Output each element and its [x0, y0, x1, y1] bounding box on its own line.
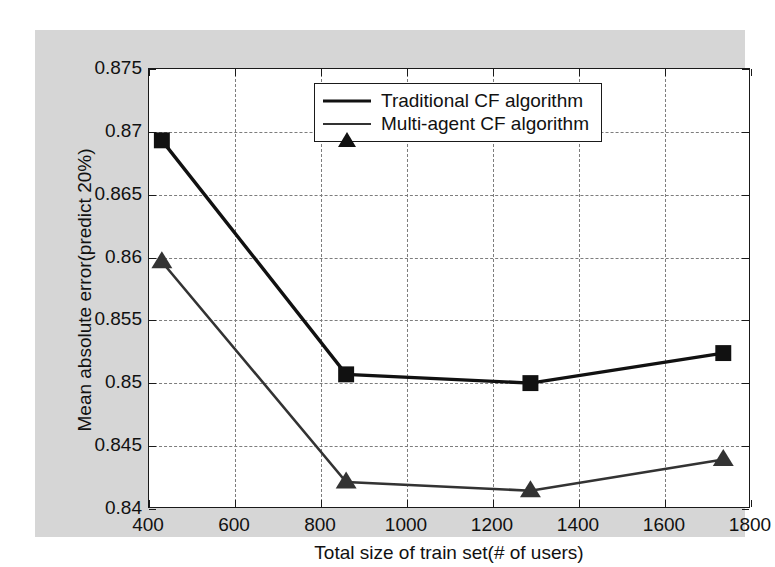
x-tick-label: 1600: [643, 514, 685, 536]
y-tick-label: 0.855: [94, 308, 142, 330]
triangle-marker-icon: [151, 251, 172, 268]
plot-area: Traditional CF algorithm Multi-agent CF …: [148, 68, 750, 508]
x-tick-label: 800: [304, 514, 336, 536]
x-tick-label: 1200: [471, 514, 513, 536]
x-tick-label: 1400: [557, 514, 599, 536]
x-axis-title: Total size of train set(# of users): [148, 542, 750, 564]
square-marker-icon: [715, 345, 731, 361]
y-tick-label: 0.87: [105, 120, 142, 142]
square-marker-icon: [338, 366, 354, 382]
legend-entry: Traditional CF algorithm: [323, 89, 589, 112]
x-axis-tick-labels: 40060080010001200140016001800: [148, 514, 750, 540]
legend-entry-label: Traditional CF algorithm: [381, 90, 583, 111]
y-tick-label: 0.875: [94, 57, 142, 79]
y-axis-title: Mean absolute error(predict 20%): [74, 70, 96, 510]
y-tick-label: 0.845: [94, 434, 142, 456]
triangle-marker-icon: [323, 114, 371, 134]
x-tick-label: 400: [132, 514, 164, 536]
y-tick-label: 0.85: [105, 371, 142, 393]
legend-entry: Multi-agent CF algorithm: [323, 112, 589, 135]
series-1: [154, 132, 731, 391]
square-marker-icon: [323, 91, 371, 111]
x-tick-label: 1000: [385, 514, 427, 536]
y-tick-mark: [149, 509, 156, 510]
square-marker-icon: [154, 132, 170, 148]
x-tick-mark: [751, 69, 752, 76]
legend: Traditional CF algorithm Multi-agent CF …: [314, 83, 602, 142]
square-marker-icon: [522, 375, 538, 391]
x-tick-label: 600: [218, 514, 250, 536]
y-tick-label: 0.86: [105, 246, 142, 268]
figure-canvas: Traditional CF algorithm Multi-agent CF …: [35, 30, 745, 537]
triangle-marker-icon: [713, 449, 734, 466]
y-tick-mark: [742, 509, 749, 510]
x-tick-label: 1800: [729, 514, 771, 536]
x-tick-mark: [751, 500, 752, 507]
series-line: [162, 262, 723, 491]
chart-figure: Traditional CF algorithm Multi-agent CF …: [0, 0, 775, 567]
legend-entry-label: Multi-agent CF algorithm: [381, 113, 589, 134]
series-line: [162, 140, 723, 383]
series-2: [151, 251, 733, 497]
y-tick-label: 0.865: [94, 183, 142, 205]
